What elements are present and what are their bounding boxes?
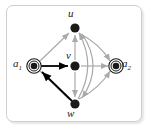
node-a1[interactable]	[27, 59, 41, 73]
node-a1-core	[31, 63, 38, 70]
bold-edge-group	[41, 66, 72, 101]
edge-a1-to-u	[40, 33, 69, 61]
node-label-a2-sub: 2	[128, 64, 132, 72]
node-v[interactable]	[70, 61, 79, 70]
node-a2-core	[113, 63, 120, 70]
node-label-a1-sub: 1	[19, 64, 23, 72]
node-label-a2: a2	[122, 58, 131, 72]
node-label-a1: a1	[13, 58, 22, 72]
node-label-v: v	[66, 50, 71, 61]
node-label-w: w	[67, 108, 74, 119]
node-label-u: u	[68, 8, 74, 19]
node-u[interactable]	[70, 23, 79, 32]
edge-w-to-a1	[42, 72, 72, 101]
figure-container: u v w a1 a2	[0, 0, 151, 132]
